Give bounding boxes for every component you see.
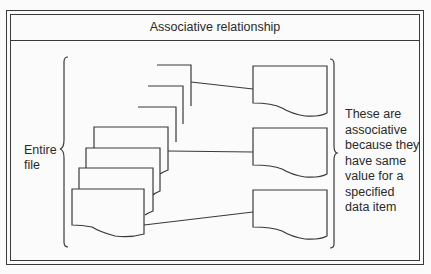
- associative-record-1: [253, 66, 327, 116]
- label-line: data item: [345, 200, 420, 216]
- record-corner-2: [148, 86, 183, 124]
- label-line: have same: [345, 154, 420, 170]
- record-stack-front: [72, 189, 144, 237]
- associative-record-2: [253, 128, 327, 177]
- label-line: specified: [345, 185, 420, 201]
- left-brace-icon: [60, 57, 68, 247]
- label-line: associative: [345, 123, 420, 139]
- connector-3: [144, 212, 253, 225]
- associative-explanation: These are associative because they have …: [345, 107, 420, 216]
- connector-1: [191, 82, 253, 89]
- label-line: Entire: [24, 143, 57, 158]
- label-line: because they: [345, 138, 420, 154]
- entire-file-label: Entire file: [24, 143, 57, 173]
- right-brace-icon: [330, 59, 337, 248]
- associative-record-3: [253, 190, 327, 239]
- connector-2: [168, 151, 253, 152]
- label-line: file: [24, 158, 57, 173]
- label-line: These are: [345, 107, 420, 123]
- label-line: value for a: [345, 169, 420, 185]
